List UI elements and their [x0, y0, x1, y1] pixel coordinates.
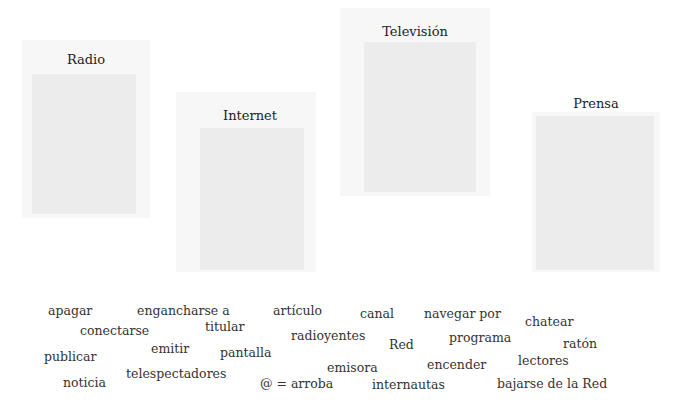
- word-chip[interactable]: pantalla: [220, 345, 271, 360]
- word-chip[interactable]: artículo: [273, 303, 322, 318]
- panel-title-television: Televisión: [340, 24, 490, 39]
- word-chip[interactable]: encender: [427, 357, 486, 372]
- word-chip[interactable]: publicar: [44, 349, 96, 364]
- word-chip[interactable]: emisora: [327, 360, 378, 375]
- word-chip[interactable]: chatear: [525, 314, 573, 329]
- word-chip[interactable]: titular: [205, 319, 245, 334]
- word-chip[interactable]: lectores: [518, 353, 569, 368]
- word-chip[interactable]: engancharse a: [137, 303, 230, 318]
- word-chip[interactable]: conectarse: [80, 323, 149, 338]
- panel-prensa-dropzone[interactable]: [536, 116, 654, 270]
- panel-internet[interactable]: Internet: [176, 92, 316, 272]
- word-chip[interactable]: radioyentes: [291, 328, 365, 343]
- word-chip[interactable]: @ = arroba: [260, 376, 333, 391]
- word-chip[interactable]: apagar: [48, 303, 92, 318]
- panel-television[interactable]: Televisión: [340, 8, 490, 196]
- word-chip[interactable]: Red: [389, 337, 414, 352]
- word-chip[interactable]: noticia: [63, 375, 106, 390]
- panel-title-internet: Internet: [176, 108, 324, 123]
- word-chip[interactable]: ratón: [563, 336, 597, 351]
- word-chip[interactable]: internautas: [372, 377, 445, 392]
- panel-radio-dropzone[interactable]: [32, 74, 136, 214]
- word-chip[interactable]: canal: [360, 306, 394, 321]
- panel-title-radio: Radio: [22, 52, 150, 67]
- word-chip[interactable]: programa: [449, 330, 511, 345]
- word-chip[interactable]: bajarse de la Red: [497, 376, 607, 391]
- panel-prensa[interactable]: [532, 112, 660, 272]
- word-chip[interactable]: navegar por: [424, 306, 501, 321]
- panel-radio[interactable]: Radio: [22, 40, 150, 218]
- word-chip[interactable]: telespectadores: [126, 366, 226, 381]
- panel-title-prensa: Prensa: [532, 96, 660, 111]
- word-chip[interactable]: emitir: [151, 341, 189, 356]
- panel-internet-dropzone[interactable]: [200, 128, 304, 270]
- panel-television-dropzone[interactable]: [364, 42, 476, 192]
